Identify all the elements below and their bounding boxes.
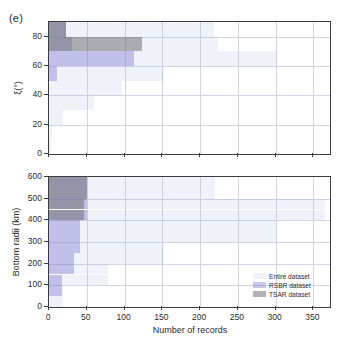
x-axis-tick — [275, 153, 276, 157]
y-axis-tick — [44, 263, 48, 264]
x-axis-tick-label: 200 — [192, 312, 206, 322]
x-axis-tick — [312, 153, 313, 157]
x-axis-tick-label: 100 — [116, 312, 130, 322]
legend-swatch-rsbr — [253, 282, 266, 288]
x-axis-title: Number of records — [153, 325, 228, 335]
x-axis-tick-label: 250 — [230, 312, 244, 322]
histogram-bar — [49, 188, 87, 199]
histogram-bar — [49, 242, 80, 253]
gridline-horizontal — [49, 125, 330, 126]
legend: Entire datasetRSBR datasetTSAR dataset — [253, 272, 329, 298]
x-axis-tick — [86, 153, 87, 157]
histogram-bar — [49, 95, 94, 110]
legend-swatch-tsar — [253, 291, 266, 297]
histogram-bar — [49, 66, 57, 81]
histogram-bar — [49, 253, 74, 264]
x-axis-tick — [237, 153, 238, 157]
y-axis-tick-label: 200 — [16, 258, 42, 268]
x-axis-tick — [161, 153, 162, 157]
histogram-bar — [49, 37, 142, 52]
y-axis-tick-label: 300 — [16, 236, 42, 246]
legend-item-rsbr: RSBR dataset — [253, 281, 329, 289]
legend-swatch-entire — [253, 273, 266, 279]
x-axis-tick — [312, 306, 313, 310]
histogram-bar — [49, 231, 80, 242]
histogram-bar — [49, 125, 52, 140]
x-axis-tick — [124, 153, 125, 157]
x-axis-tick — [48, 153, 49, 157]
legend-label: RSBR dataset — [269, 282, 311, 289]
y-axis-tick-label: 20 — [16, 119, 42, 129]
histogram-bar — [49, 220, 276, 231]
y-axis-tick — [44, 198, 48, 199]
x-axis-tick — [86, 306, 87, 310]
histogram-bar — [49, 66, 164, 81]
legend-label: TSAR dataset — [269, 291, 310, 298]
histogram-bar — [49, 296, 63, 307]
y-axis-tick-label: 40 — [16, 89, 42, 99]
x-axis-tick-label: 150 — [154, 312, 168, 322]
legend-label: Entire dataset — [269, 273, 310, 280]
histogram-bar — [49, 177, 87, 188]
histogram-bar — [49, 199, 325, 210]
y-axis-tick-label: 500 — [16, 193, 42, 203]
x-axis-tick — [275, 306, 276, 310]
y-axis-tick — [44, 284, 48, 285]
y-axis-tick — [44, 36, 48, 37]
y-axis-tick-label: 60 — [16, 60, 42, 70]
y-axis-tick — [44, 124, 48, 125]
histogram-bar — [49, 22, 66, 37]
x-axis-tick — [199, 306, 200, 310]
gridline-vertical — [313, 22, 314, 154]
figure-panel-e: (e) ξ(°) Bottom radii (km) Number of rec… — [0, 0, 339, 347]
histogram-bar — [49, 139, 51, 154]
legend-item-tsar: TSAR dataset — [253, 290, 329, 298]
x-axis-tick — [124, 306, 125, 310]
histogram-bar — [49, 231, 276, 242]
histogram-bar — [49, 275, 62, 286]
x-axis-tick — [48, 306, 49, 310]
legend-item-entire: Entire dataset — [253, 272, 329, 280]
histogram-bar — [49, 285, 62, 296]
histogram-bar — [49, 210, 325, 221]
histogram-bar — [49, 199, 84, 210]
x-axis-tick — [161, 306, 162, 310]
x-axis-tick-label: 300 — [268, 312, 282, 322]
gridline-vertical — [238, 22, 239, 154]
y-axis-tick — [44, 65, 48, 66]
y-axis-tick-label: 600 — [16, 171, 42, 181]
histogram-bar — [49, 51, 134, 66]
gridline-vertical — [276, 22, 277, 154]
histogram-bar — [49, 81, 122, 96]
histogram-bar — [49, 22, 214, 37]
histogram-bar — [49, 210, 84, 221]
y-axis-tick — [44, 176, 48, 177]
y-axis-tick-label: 0 — [16, 301, 42, 311]
y-axis-tick-label: 400 — [16, 214, 42, 224]
x-axis-tick — [199, 153, 200, 157]
panel-label: (e) — [9, 12, 23, 24]
y-axis-tick — [44, 94, 48, 95]
x-axis-tick-label: 0 — [46, 312, 51, 322]
histogram-bar — [49, 264, 74, 275]
y-axis-tick — [44, 241, 48, 242]
y-axis-tick-label: 80 — [16, 31, 42, 41]
x-axis-tick — [237, 306, 238, 310]
plot-area-xi — [48, 21, 331, 155]
y-axis-tick-label: 0 — [16, 148, 42, 158]
histogram-bar — [49, 220, 80, 231]
histogram-bar — [49, 110, 63, 125]
x-axis-tick-label: 50 — [81, 312, 90, 322]
y-axis-tick-label: 100 — [16, 279, 42, 289]
x-axis-tick-label: 350 — [305, 312, 319, 322]
y-axis-tick — [44, 219, 48, 220]
